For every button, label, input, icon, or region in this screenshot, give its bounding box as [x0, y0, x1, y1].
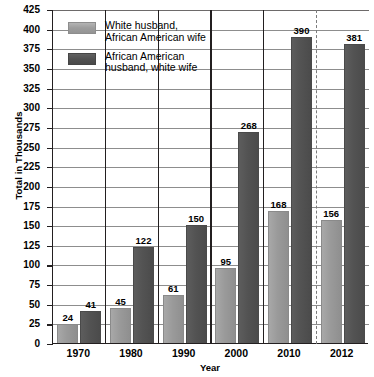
x-axis-tick-label: 2010 [259, 347, 319, 359]
bar-1990-series1 [163, 295, 184, 343]
x-axis-title: Year [52, 362, 368, 373]
y-axis-tick [47, 187, 53, 188]
y-axis-tick-label: 350 [0, 64, 40, 74]
y-axis-tick-label: 200 [0, 182, 40, 192]
bar-value-label: 150 [176, 214, 216, 224]
y-axis-tick-label: 275 [0, 123, 40, 133]
group-separator [210, 10, 211, 344]
y-axis-tick-label: 25 [0, 319, 40, 329]
y-axis-tick [47, 89, 53, 90]
y-axis-tick-label: 175 [0, 202, 40, 212]
y-axis-tick [47, 167, 53, 168]
y-axis-tick [47, 324, 53, 325]
bar-value-label: 122 [124, 236, 164, 246]
x-axis-tick-label: 1980 [101, 347, 161, 359]
bar-1980-series1 [110, 308, 131, 343]
legend-item-label: African American husband, white wife [105, 51, 197, 75]
bar-chart: Total in Thousands Year 0255075100125150… [0, 0, 374, 377]
y-axis-tick-label: 75 [0, 280, 40, 290]
y-axis-tick-label: 225 [0, 162, 40, 172]
y-axis-tick-label: 325 [0, 84, 40, 94]
x-axis-tick-label: 2012 [312, 347, 372, 359]
y-axis-tick-label: 150 [0, 221, 40, 231]
y-axis-tick-label: 375 [0, 44, 40, 54]
legend-item: African American husband, white wife [68, 51, 206, 75]
y-axis-tick-label: 300 [0, 103, 40, 113]
bar-value-label: 268 [229, 121, 269, 131]
legend-swatch-light-icon [68, 22, 96, 34]
legend-item-label: White husband, African American wife [105, 20, 206, 44]
bar-2010-series1 [268, 211, 289, 343]
y-axis-tick [47, 69, 53, 70]
bar-1970-series2 [80, 311, 101, 343]
y-axis-tick-label: 125 [0, 241, 40, 251]
y-axis-tick [47, 207, 53, 208]
x-axis-tick-label: 2000 [206, 347, 266, 359]
y-axis-tick-label: 250 [0, 143, 40, 153]
bar-value-label: 381 [334, 33, 374, 43]
y-axis-tick [47, 265, 53, 266]
y-axis-tick-label: 0 [0, 339, 40, 349]
bar-value-label: 390 [282, 26, 322, 36]
y-axis-tick [47, 226, 53, 227]
bar-1990-series2 [186, 225, 207, 343]
y-axis-tick [47, 128, 53, 129]
y-axis-tick [47, 108, 53, 109]
y-axis-tick [47, 305, 53, 306]
legend-item: White husband, African American wife [68, 20, 206, 44]
legend-swatch-dark-icon [68, 53, 96, 65]
group-separator [263, 10, 264, 344]
y-axis-tick-label: 100 [0, 260, 40, 270]
y-axis-tick [47, 246, 53, 247]
y-axis-tick-label: 400 [0, 25, 40, 35]
dashed-divider [316, 10, 317, 344]
legend: White husband, African American wife Afr… [68, 20, 206, 81]
y-axis-tick [47, 10, 53, 11]
bar-2000-series2 [238, 132, 259, 343]
bar-2012-series2 [344, 44, 365, 343]
bar-2012-series1 [321, 220, 342, 343]
y-axis-tick-label: 425 [0, 5, 40, 15]
y-axis-tick [47, 344, 53, 345]
y-axis-tick [47, 148, 53, 149]
y-axis-tick-labels: 0255075100125150175200225250275300325350… [0, 10, 44, 344]
bar-2010-series2 [291, 37, 312, 344]
y-axis-tick [47, 49, 53, 50]
bar-2000-series1 [215, 268, 236, 343]
y-axis-tick-label: 50 [0, 300, 40, 310]
bar-1980-series2 [133, 247, 154, 343]
x-axis-tick-label: 1990 [154, 347, 214, 359]
y-axis-tick [47, 30, 53, 31]
bar-1970-series1 [57, 324, 78, 343]
y-axis-tick [47, 285, 53, 286]
x-axis-tick-label: 1970 [48, 347, 108, 359]
